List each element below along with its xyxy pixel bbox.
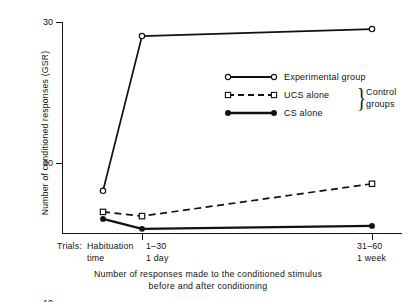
legend-label: Experimental group [284, 72, 366, 82]
control-groups-line1: Control [366, 87, 396, 99]
x-category-line1: 31–60 [357, 241, 382, 251]
x-category-line2: 1 week [357, 253, 386, 265]
x-category-line2: 1 day [146, 253, 169, 265]
legend-item-cs-alone: CS alone [224, 106, 323, 120]
data-point [100, 188, 105, 193]
x-category-line1: Habituation [87, 241, 134, 251]
legend-label: CS alone [284, 108, 323, 118]
x-axis-labels: Trials: Habituation time 1–30 1 day 31–6… [0, 241, 416, 271]
plot-area: 30 20 10 0 [62, 22, 402, 233]
control-groups-line2: groups [366, 99, 396, 111]
open-square-dashed-line-icon [224, 89, 278, 101]
x-category-31-60: 31–60 1 week [357, 241, 386, 264]
x-category-1-30: 1–30 1 day [146, 241, 169, 264]
filled-circle-solid-line-icon [224, 107, 278, 119]
chart-figure: Number of conditioned responses (GSR) 30… [0, 0, 416, 302]
x-axis-line [62, 233, 402, 234]
data-point [369, 223, 375, 229]
open-circle-solid-line-icon [224, 71, 278, 83]
figure-caption: Number of responses made to the conditio… [0, 269, 416, 292]
x-category-line1: 1–30 [146, 241, 166, 251]
control-groups-label: Control groups [366, 87, 396, 110]
series-canvas [62, 22, 402, 233]
data-point [139, 33, 144, 38]
data-point [369, 181, 374, 186]
data-point [100, 209, 105, 214]
y-tick-label: 20 [43, 158, 53, 168]
y-tick-label: 10 [43, 298, 53, 302]
caption-line2: before and after conditioning [0, 281, 416, 293]
legend-item-ucs-alone: UCS alone [224, 88, 329, 102]
series-line-1 [103, 184, 372, 216]
x-category-habituation: Habituation time [87, 241, 134, 264]
legend-label: UCS alone [284, 90, 329, 100]
y-tick-label: 30 [43, 17, 53, 27]
control-groups-brace-icon: } [357, 85, 366, 112]
x-category-line2: time [87, 253, 134, 265]
legend-item-experimental-group: Experimental group [224, 70, 366, 84]
data-point [100, 216, 106, 222]
x-tick-mark-2 [372, 233, 373, 240]
caption-line1: Number of responses made to the conditio… [0, 269, 416, 281]
y-axis-title: Number of conditioned responses (GSR) [40, 28, 50, 238]
data-point [139, 213, 144, 218]
chart-legend: Experimental group UCS alone CS alon [224, 70, 404, 124]
data-point [369, 26, 374, 31]
trials-prefix-label: Trials: [57, 241, 82, 251]
x-tick-mark-1 [142, 233, 143, 240]
data-point [139, 226, 145, 232]
